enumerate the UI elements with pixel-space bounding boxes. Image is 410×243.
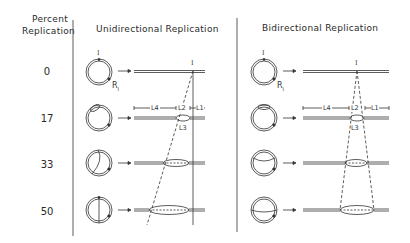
linear-dna-bi-17: [303, 115, 389, 121]
circle-bi-0: [251, 59, 277, 86]
terminus-subscript: I: [283, 86, 284, 92]
terminus-label-uni-0: RI: [112, 81, 119, 92]
circle-bi-17: [251, 105, 277, 132]
replication-diagram: [0, 0, 410, 243]
origin-label-bi-0: I: [262, 49, 265, 57]
L4-bi: L4: [322, 104, 332, 112]
origin-label-uni-0: I: [97, 49, 100, 57]
linear-dna-bi-0: [303, 71, 389, 73]
circle-uni-33: [86, 150, 112, 176]
terminus-label-bi-0: RI: [277, 81, 284, 92]
linear-dna-uni-17: [134, 115, 205, 121]
origin-label-uni-linear: I: [191, 59, 194, 67]
L4-uni: L4: [150, 104, 160, 112]
L2-uni: L2: [178, 104, 186, 112]
linear-dna-uni-33: [134, 160, 205, 167]
circle-uni-50: [86, 197, 112, 224]
linear-dna-uni-0: [134, 71, 205, 73]
L1-uni: L1: [196, 104, 204, 112]
origin-label-bi-linear: I: [355, 59, 358, 67]
linear-dna-uni-50: [134, 206, 205, 215]
L2-bi: L2: [351, 104, 359, 112]
terminus-subscript: I: [118, 86, 119, 92]
circle-uni-17: [86, 103, 112, 131]
L1-bi: L1: [371, 104, 379, 112]
circle-bi-33: [251, 150, 277, 176]
L3-bi: L3: [351, 124, 359, 132]
circle-uni-0: [86, 59, 112, 86]
L3-uni: L3: [179, 124, 187, 132]
circle-bi-50: [251, 197, 277, 223]
linear-dna-bi-50: [303, 206, 389, 215]
